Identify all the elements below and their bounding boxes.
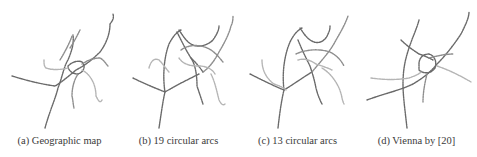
metro-network-drawing bbox=[119, 0, 238, 130]
metro-network-drawing bbox=[357, 0, 476, 130]
panel-19-circular-arcs: (b) 19 circular arcs bbox=[119, 0, 238, 157]
metro-network-drawing bbox=[0, 0, 119, 130]
caption-a: (a) Geographic map bbox=[0, 134, 119, 148]
metro-network-drawing bbox=[238, 0, 357, 130]
panel-13-circular-arcs: (c) 13 circular arcs bbox=[238, 0, 357, 157]
panel-vienna-reference: (d) Vienna by [20] bbox=[357, 0, 476, 157]
caption-d: (d) Vienna by [20] bbox=[357, 134, 476, 148]
caption-c: (c) 13 circular arcs bbox=[238, 134, 357, 148]
caption-b: (b) 19 circular arcs bbox=[119, 134, 238, 148]
panel-geographic-map: (a) Geographic map bbox=[0, 0, 119, 157]
